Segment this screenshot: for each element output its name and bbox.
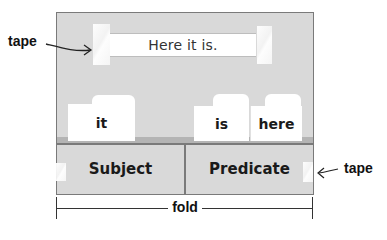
tape-callout-label: tape bbox=[8, 33, 37, 49]
panel-label-predicate: Predicate bbox=[209, 160, 290, 178]
panel-label-subject: Subject bbox=[89, 160, 153, 178]
predicate-panel: Predicate bbox=[186, 144, 313, 194]
curved-arrow-icon bbox=[44, 36, 96, 60]
tape-bottom-right bbox=[303, 162, 313, 182]
arrow-left-icon bbox=[316, 164, 340, 180]
subject-panel: Subject bbox=[57, 144, 184, 194]
card-label: is bbox=[215, 116, 228, 132]
word-card-here[interactable]: here bbox=[250, 106, 302, 141]
tape-bottom-left bbox=[56, 163, 66, 181]
tape-right-top bbox=[257, 26, 272, 64]
word-card-it[interactable]: it bbox=[68, 104, 135, 141]
fold-label: fold bbox=[168, 199, 202, 215]
fold-label-wrap: fold bbox=[56, 199, 314, 215]
sentence-strip: Here it is. bbox=[110, 33, 256, 57]
tape-callout-label-right: tape bbox=[344, 160, 373, 176]
card-label: it bbox=[96, 115, 108, 131]
card-label: here bbox=[259, 116, 295, 132]
word-card-is[interactable]: is bbox=[194, 106, 249, 141]
sentence-text: Here it is. bbox=[148, 37, 217, 53]
